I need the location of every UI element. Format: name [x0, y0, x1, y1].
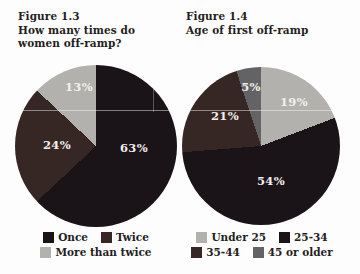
- legend-row: OnceTwice: [43, 231, 149, 243]
- legend-swatch-35-44: [191, 247, 202, 258]
- slice-label-35-44: 21%: [211, 109, 239, 123]
- figure-number: Figure 1.3: [18, 10, 135, 24]
- slice-label-45-or-older: 5%: [241, 80, 261, 94]
- slice-label-twice: 24%: [43, 138, 71, 152]
- legend-row: Under 2525-34: [196, 231, 327, 243]
- legend-swatch-25-34: [279, 232, 290, 243]
- legend-row: More than twice: [40, 246, 151, 258]
- slice-label-under-25: 19%: [280, 95, 308, 109]
- legend-label-under-25: Under 25: [211, 231, 266, 243]
- legend-label-twice: Twice: [116, 231, 149, 243]
- legend-swatch-twice: [101, 232, 112, 243]
- legend-label-35-44: 35-44: [206, 246, 240, 258]
- figure-1-3-title: Figure 1.3 How many times do women off-r…: [18, 10, 135, 51]
- legend-row: 35-4445 or older: [191, 246, 333, 258]
- figure-caption-line-1: How many times do: [18, 24, 135, 38]
- figure-caption-line-2: women off-ramp?: [18, 37, 135, 51]
- legend-swatch-under-25: [196, 232, 207, 243]
- pie-chart-age-first-off-ramp: [182, 67, 340, 225]
- legend-item-once: Once: [43, 231, 88, 243]
- slice-label-more-than-twice: 13%: [65, 80, 93, 94]
- legend-item-45-or-older: 45 or older: [253, 246, 333, 258]
- legend-item-25-34: 25-34: [279, 231, 328, 243]
- legend-item-twice: Twice: [101, 231, 149, 243]
- legend-label-45-or-older: 45 or older: [268, 246, 333, 258]
- legend-item-under-25: Under 25: [196, 231, 266, 243]
- legend-item-more-than-twice: More than twice: [40, 246, 151, 258]
- slice-label-25-34: 54%: [257, 174, 285, 188]
- legend-age-first-off-ramp: Under 2525-3435-4445 or older: [176, 231, 348, 258]
- figure-1-4-title: Figure 1.4 Age of first off-ramp: [186, 10, 308, 37]
- legend-off-ramp-frequency: OnceTwiceMore than twice: [10, 231, 182, 258]
- legend-swatch-45-or-older: [253, 247, 264, 258]
- legend-swatch-once: [43, 232, 54, 243]
- legend-label-more-than-twice: More than twice: [55, 246, 151, 258]
- page: Figure 1.3 How many times do women off-r…: [0, 0, 360, 274]
- legend-item-35-44: 35-44: [191, 246, 240, 258]
- figure-caption-line-1: Age of first off-ramp: [186, 24, 308, 38]
- figure-number: Figure 1.4: [186, 10, 308, 24]
- legend-swatch-more-than-twice: [40, 247, 51, 258]
- legend-label-once: Once: [58, 231, 88, 243]
- legend-label-25-34: 25-34: [294, 231, 328, 243]
- slice-label-once: 63%: [120, 141, 148, 155]
- pie-chart-off-ramp-frequency: [15, 65, 177, 227]
